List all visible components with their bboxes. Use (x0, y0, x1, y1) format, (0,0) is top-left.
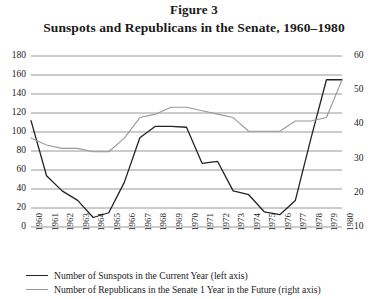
legend-item-republicans: Number of Republicans in the Senate 1 Ye… (26, 283, 388, 297)
x-axis-tick-label: 1969 (175, 213, 184, 231)
y-axis-left-tick-label: 0 (0, 222, 26, 232)
y-axis-left-tick-label: 160 (0, 70, 26, 80)
x-axis-tick-label: 1972 (222, 213, 231, 231)
series-line-republicans (31, 80, 342, 152)
legend-item-sunspots: Number of Sunspots in the Current Year (… (26, 269, 388, 283)
y-axis-left-tick-label: 180 (0, 51, 26, 61)
y-axis-right-tick-label: 10 (354, 222, 380, 232)
x-axis-tick-label: 1980 (346, 213, 355, 231)
y-axis-left-tick-label: 120 (0, 108, 26, 118)
y-axis-left-tick-label: 40 (0, 184, 26, 194)
x-axis-tick-label: 1973 (237, 213, 246, 231)
y-axis-left-tick-label: 20 (0, 203, 26, 213)
x-axis-tick-label: 1979 (330, 213, 339, 231)
x-axis-tick-label: 1968 (159, 213, 168, 231)
legend-label-republicans: Number of Republicans in the Senate 1 Ye… (54, 283, 321, 296)
y-axis-right-tick-label: 60 (354, 51, 380, 61)
y-axis-left-tick-label: 140 (0, 89, 26, 99)
y-axis-right-tick-label: 40 (354, 119, 380, 129)
x-axis-tick-label: 1975 (268, 213, 277, 231)
x-axis-tick-label: 1965 (113, 213, 122, 231)
y-axis-right-tick-label: 20 (354, 188, 380, 198)
x-axis-tick-label: 1960 (35, 213, 44, 231)
y-axis-right-tick-label: 30 (354, 154, 380, 164)
y-axis-left-tick-label: 60 (0, 165, 26, 175)
x-axis-tick-label: 1978 (315, 213, 324, 231)
chart-svg (0, 0, 388, 299)
x-axis-tick-label: 1974 (253, 213, 262, 231)
data-series-layer (31, 80, 342, 218)
figure-root: Figure 3 Sunspots and Republicans in the… (0, 0, 388, 299)
y-axis-left-tick-label: 80 (0, 146, 26, 156)
legend-swatch-sunspots-icon (26, 275, 48, 276)
x-axis-tick-label: 1970 (191, 213, 200, 231)
x-axis-tick-label: 1961 (51, 213, 60, 231)
legend-label-sunspots: Number of Sunspots in the Current Year (… (54, 269, 248, 282)
x-axis-tick-label: 1964 (97, 213, 106, 231)
y-axis-right-tick-label: 50 (354, 85, 380, 95)
x-axis-tick-label: 1977 (299, 213, 308, 231)
legend-swatch-republicans-icon (26, 289, 48, 290)
x-axis-tick-label: 1963 (82, 213, 91, 231)
y-axis-left-tick-label: 100 (0, 127, 26, 137)
x-axis-tick-label: 1971 (206, 213, 215, 231)
x-axis-tick-label: 1962 (66, 213, 75, 231)
x-axis-tick-label: 1966 (128, 213, 137, 231)
x-axis-tick-label: 1976 (284, 213, 293, 231)
chart-plot-area: 180160140120100806040200 605040302010 19… (0, 0, 388, 299)
chart-legend: Number of Sunspots in the Current Year (… (26, 269, 388, 297)
x-axis-tick-label: 1967 (144, 213, 153, 231)
